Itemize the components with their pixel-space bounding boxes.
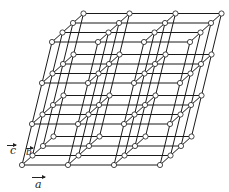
lattice-point [70, 20, 75, 25]
lattice-point [50, 102, 55, 107]
lattice-point [131, 80, 136, 85]
lattice-edge [171, 115, 181, 156]
lattice-edge [53, 33, 63, 74]
lattice-edge [170, 83, 180, 124]
lattice-point [19, 162, 24, 167]
lattice-point [97, 134, 102, 139]
lattice-point [173, 11, 178, 16]
lattice-edge [146, 96, 156, 137]
lattice-edge [99, 33, 109, 74]
lattice-point [187, 39, 192, 44]
lattice-point [61, 93, 66, 98]
lattice-edge [53, 64, 63, 105]
lattice-point [29, 121, 34, 126]
lattice-point [111, 162, 116, 167]
lattice-point [39, 80, 44, 85]
lattice-point [142, 71, 147, 76]
vector-c-label: c [10, 145, 16, 156]
lattice-edge [89, 105, 99, 146]
lattice-point [132, 112, 137, 117]
lattice-point [152, 61, 157, 66]
lattice-point [40, 143, 45, 148]
lattice-point [86, 112, 91, 117]
lattice-edge [192, 96, 202, 137]
lattice-point [153, 93, 158, 98]
vector-a-label: a [35, 179, 42, 190]
lattice-point [141, 39, 146, 44]
lattice-edge [32, 83, 42, 124]
crystal-lattice-diagram [0, 0, 229, 192]
lattice-edge [79, 115, 89, 156]
lattice-edge [68, 124, 78, 165]
lattice-point [106, 61, 111, 66]
lattice-point [167, 121, 172, 126]
lattice-point [208, 20, 213, 25]
lattice-edge [155, 23, 165, 64]
lattice-point [117, 52, 122, 57]
lattice-point [75, 121, 80, 126]
lattice-point [76, 153, 81, 158]
lattice-point [81, 11, 86, 16]
lattice-point [116, 20, 121, 25]
lattice-point [86, 143, 91, 148]
lattice-edge [78, 83, 88, 124]
lattice-edge [100, 96, 110, 137]
lattice-point [96, 102, 101, 107]
lattice-point [85, 80, 90, 85]
lattice-edges [22, 14, 222, 166]
lattice-point [95, 39, 100, 44]
lattice-edge [42, 42, 52, 83]
lattice-edge [63, 23, 73, 64]
lattice-point [60, 30, 65, 35]
lattice-point [50, 71, 55, 76]
lattice-edge [180, 42, 190, 83]
lattice-point [51, 134, 56, 139]
lattice-point [198, 30, 203, 35]
lattice-edge [145, 64, 155, 105]
lattice-edge [202, 55, 212, 96]
lattice-edge [156, 55, 166, 96]
lattice-point [188, 102, 193, 107]
lattice-point [157, 162, 162, 167]
lattice-edge [166, 14, 176, 55]
lattice-edge [191, 33, 201, 74]
lattice-point [168, 153, 173, 158]
lattice-edge [99, 64, 109, 105]
lattice-edge [43, 105, 53, 146]
lattice-edge [120, 14, 130, 55]
lattice-point [127, 11, 132, 16]
lattice-edge [212, 14, 222, 55]
lattice-point [107, 93, 112, 98]
lattice-edge [43, 74, 53, 115]
lattice-point [60, 61, 65, 66]
lattice-point [162, 20, 167, 25]
lattice-edge [88, 42, 98, 83]
lattice-point [40, 112, 45, 117]
lattice-edge [114, 124, 124, 165]
lattice-point [152, 30, 157, 35]
lattice-edge [109, 23, 119, 64]
lattice-edge [134, 42, 144, 83]
lattice-point [49, 39, 54, 44]
lattice-point [198, 61, 203, 66]
lattice-point [188, 71, 193, 76]
vector-b-label: b [26, 148, 32, 157]
lattice-edge [181, 105, 191, 146]
lattice-point [143, 134, 148, 139]
lattice-edge [145, 33, 155, 74]
lattice-point [96, 71, 101, 76]
lattice-edge [160, 124, 170, 165]
lattice-edge [125, 115, 135, 156]
lattice-point [122, 153, 127, 158]
lattice-point [199, 93, 204, 98]
lattice-edge [124, 83, 134, 124]
lattice-nodes [19, 11, 224, 168]
lattice-point [121, 121, 126, 126]
lattice-point [189, 134, 194, 139]
lattice-edge [191, 64, 201, 105]
lattice-point [132, 143, 137, 148]
lattice-edge [54, 96, 64, 137]
lattice-point [65, 162, 70, 167]
lattice-edge [181, 74, 191, 115]
lattice-point [209, 52, 214, 57]
